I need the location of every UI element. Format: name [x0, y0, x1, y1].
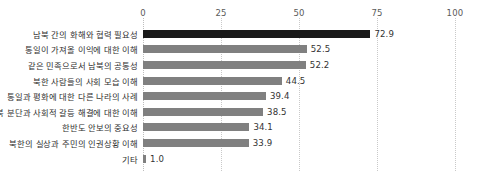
- x-tick-label: 75: [371, 8, 382, 18]
- bar-row: 한반도 안보의 중요성 34.1: [143, 120, 455, 136]
- bar-row: 통일과 평화에 대한 다른 나라의 사례 39.4: [143, 88, 455, 104]
- value-label: 52.2: [310, 60, 330, 70]
- x-tick-label: 0: [140, 8, 146, 18]
- bar: [143, 77, 282, 85]
- bar: [143, 108, 263, 116]
- bar: [143, 155, 146, 163]
- category-label: 같은 민족으로서 남북의 공통성: [28, 59, 138, 71]
- value-label: 44.5: [286, 76, 306, 86]
- x-tick-label: 50: [293, 8, 304, 18]
- category-label: 남북 간의 화해와 협력 필요성: [33, 28, 138, 40]
- bar: [143, 45, 307, 53]
- value-label: 34.1: [253, 122, 273, 132]
- bar-row: 북한의 실상과 주민의 인권상황 이해 33.9: [143, 135, 455, 151]
- bar-row: 통일이 가져올 이익에 대한 이해 52.5: [143, 42, 455, 58]
- value-label: 39.4: [270, 91, 290, 101]
- bar: [143, 30, 370, 38]
- category-label: 통일과 평화에 대한 다른 나라의 사례: [7, 90, 138, 102]
- bar-row: 기타 1.0: [143, 151, 455, 167]
- category-label: 통일이 가져올 이익에 대한 이해: [25, 43, 138, 55]
- value-label: 72.9: [374, 29, 394, 39]
- bar-row: 북한 사람들의 사회 모습 이해 44.5: [143, 73, 455, 89]
- bar-chart: 0 25 50 75 100 남북 간의 화해와 협력 필요성 72.9 통일이…: [0, 0, 486, 177]
- value-label: 38.5: [267, 107, 287, 117]
- category-label: 북한의 실상과 주민의 인권상황 이해: [9, 137, 138, 149]
- bar: [143, 61, 306, 69]
- category-label: 남북 분단과 사회적 갈등 해결에 대한 이해: [0, 106, 138, 118]
- bar: [143, 92, 266, 100]
- bar-row: 남북 간의 화해와 협력 필요성 72.9: [143, 26, 455, 42]
- x-tick-label: 100: [447, 8, 464, 18]
- x-tick-label: 25: [215, 8, 226, 18]
- value-label: 1.0: [150, 154, 164, 164]
- category-label: 한반도 안보의 중요성: [62, 121, 138, 133]
- value-label: 33.9: [253, 138, 273, 148]
- bar-row: 같은 민족으로서 남북의 공통성 52.2: [143, 57, 455, 73]
- value-label: 52.5: [311, 44, 331, 54]
- gridline-100: [455, 18, 456, 171]
- bar: [143, 139, 249, 147]
- plot-area: 0 25 50 75 100 남북 간의 화해와 협력 필요성 72.9 통일이…: [143, 26, 455, 171]
- bar-row: 남북 분단과 사회적 갈등 해결에 대한 이해 38.5: [143, 104, 455, 120]
- bar: [143, 123, 249, 131]
- category-label: 북한 사람들의 사회 모습 이해: [33, 75, 138, 87]
- category-label: 기타: [122, 153, 138, 165]
